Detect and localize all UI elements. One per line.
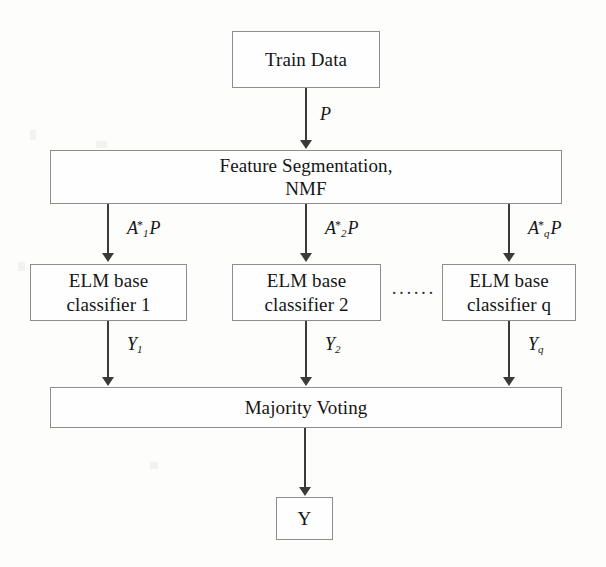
- node-feature-segmentation-line1: Feature Segmentation,: [219, 154, 392, 177]
- scan-speck: [18, 262, 25, 271]
- edge-label-elm-1-to-vote: Y1: [127, 334, 143, 355]
- connector-elm-2-to-vote-arrowhead: [300, 377, 312, 386]
- edge-label-nmf-to-elm-1: A*1P: [127, 218, 161, 239]
- edge-label-elm-2-to-vote: Y2: [325, 334, 341, 355]
- connector-nmf-to-elm-2-arrowhead: [300, 253, 312, 262]
- edge-label-nmf-to-elm-2: A*2P: [325, 218, 359, 239]
- node-elm-q-line2: classifier q: [467, 293, 551, 316]
- node-train-data-label: Train Data: [265, 48, 347, 71]
- connector-elm-q-to-vote-arrowhead: [503, 377, 515, 386]
- node-output-y-label: Y: [298, 507, 312, 530]
- connector-elm-1-to-vote-line: [107, 321, 109, 378]
- edge-label-train-to-nmf: P: [320, 104, 331, 125]
- edge-label-elm-q-to-vote: Yq: [528, 334, 544, 355]
- node-feature-segmentation-line2: NMF: [219, 177, 392, 200]
- node-elm-2-line2: classifier 2: [264, 293, 348, 316]
- connector-nmf-to-elm-q-line: [508, 204, 510, 254]
- connector-nmf-to-elm-q-arrowhead: [503, 253, 515, 262]
- connector-nmf-to-elm-1-line: [107, 204, 109, 254]
- scan-speck: [150, 462, 158, 469]
- flowchart-canvas: Train Data Feature Segmentation, NMF ELM…: [0, 0, 606, 567]
- node-elm-q-line1: ELM base: [467, 269, 551, 292]
- connector-elm-q-to-vote-line: [508, 321, 510, 378]
- node-majority-voting[interactable]: Majority Voting: [50, 387, 562, 428]
- connector-elm-2-to-vote-line: [305, 321, 307, 378]
- scan-speck: [30, 130, 36, 140]
- node-elm-1-line1: ELM base: [66, 269, 150, 292]
- connector-vote-to-output-line: [304, 428, 306, 488]
- connector-train-to-nmf-arrowhead: [300, 140, 312, 149]
- node-elm-base-classifier-1[interactable]: ELM base classifier 1: [30, 264, 187, 321]
- edge-label-nmf-to-elm-q: A*qP: [528, 218, 562, 239]
- node-majority-voting-label: Majority Voting: [245, 396, 368, 419]
- node-elm-base-classifier-2[interactable]: ELM base classifier 2: [232, 264, 381, 321]
- node-elm-base-classifier-q[interactable]: ELM base classifier q: [442, 264, 576, 321]
- connector-elm-1-to-vote-arrowhead: [102, 377, 114, 386]
- node-feature-segmentation-nmf[interactable]: Feature Segmentation, NMF: [50, 150, 562, 204]
- connector-train-to-nmf-line: [305, 88, 307, 141]
- connector-nmf-to-elm-1-arrowhead: [102, 253, 114, 262]
- node-output-y[interactable]: Y: [276, 497, 333, 540]
- node-elm-1-line2: classifier 1: [66, 293, 150, 316]
- connector-nmf-to-elm-2-line: [305, 204, 307, 254]
- connector-vote-to-output-arrowhead: [299, 487, 311, 496]
- scan-speck: [96, 141, 107, 148]
- node-elm-2-line1: ELM base: [264, 269, 348, 292]
- ellipsis-between-classifiers: ······: [388, 282, 438, 304]
- node-train-data[interactable]: Train Data: [232, 31, 380, 88]
